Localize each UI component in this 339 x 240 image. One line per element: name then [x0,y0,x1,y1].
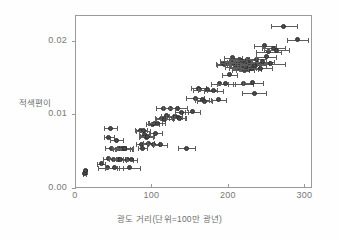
error-bar-cap [169,106,170,111]
hubble-diagram-figure: 0100200300 0.000.010.02 광도 거리(단위=100만 광년… [0,0,339,240]
error-bar-cap [146,122,147,127]
y-tick [72,41,76,42]
error-bar-cap [285,62,286,67]
data-point [264,54,269,59]
data-point [179,110,184,115]
data-point [295,37,300,42]
scatter-data-layer [76,16,311,187]
data-point [274,48,279,53]
error-bar-cap [166,115,167,120]
error-bar-cap [185,110,186,115]
data-point [190,109,195,114]
error-bar-cap [193,88,194,93]
error-bar-cap [200,110,201,115]
error-bar-cap [225,65,226,70]
error-bar-cap [289,48,290,53]
error-bar-cap [165,121,166,126]
error-bar-cap [175,110,176,115]
error-bar-cap [113,157,114,162]
error-bar-cap [241,67,242,72]
error-bar-cap [233,82,234,87]
error-bar-cap [149,131,150,136]
error-bar-cap [264,48,265,53]
error-bar-cap [242,91,243,96]
error-bar-cap [262,46,263,51]
error-bar-cap [287,38,288,43]
error-bar-cap [224,56,225,61]
x-tick-label: 200 [208,190,248,200]
data-point [158,142,163,147]
data-point [202,99,207,104]
x-tick [304,184,305,188]
error-bar-cap [104,126,105,131]
data-point [112,165,117,170]
error-bar-cap [163,106,164,111]
error-bar-cap [156,106,157,111]
data-point [153,131,158,136]
error-bar-cap [226,98,227,103]
error-bar-cap [137,158,138,163]
error-bar-cap [109,157,110,162]
error-bar-cap [123,138,124,143]
error-bar-cap [256,50,257,55]
error-bar-cap [204,89,205,94]
error-bar-cap [237,73,238,78]
data-point [252,91,257,96]
data-point [114,138,119,143]
error-bar-cap [133,146,134,151]
error-bar-cap [117,146,118,151]
error-bar-cap [243,81,244,86]
error-bar-cap [116,157,117,162]
error-bar-cap [276,55,277,60]
error-bar-cap [149,121,150,126]
y-tick-label: 0.00 [27,182,67,192]
data-point [258,66,263,71]
error-bar-cap [169,114,170,119]
data-point [211,88,216,93]
error-bar-cap [143,141,144,146]
error-bar-cap [140,166,141,171]
data-point [184,146,189,151]
error-bar-cap [136,129,137,134]
error-bar-cap [271,24,272,29]
error-bar-cap [211,98,212,103]
error-bar-cap [220,59,221,64]
data-point [216,97,221,102]
error-bar-cap [119,166,120,171]
error-bar-cap [195,146,196,151]
error-bar-cap [153,143,154,148]
y-tick [72,114,76,115]
error-bar-cap [308,38,309,43]
error-bar-cap [104,135,105,140]
y-tick-label: 0.02 [27,35,67,45]
error-bar-cap [197,99,198,104]
error-bar-cap [186,96,187,101]
error-bar-cap [231,63,232,68]
error-bar-cap [248,66,249,71]
error-bar-cap [117,126,118,131]
data-point [140,146,145,151]
error-bar-cap [256,55,257,60]
error-bar-cap [126,158,127,163]
error-bar-cap [167,143,168,148]
error-bar-cap [103,157,104,162]
error-bar-cap [110,138,111,143]
error-bar-cap [186,116,187,121]
y-tick-label: 0.01 [27,108,67,118]
error-bar-cap [251,60,252,65]
data-point [127,165,132,170]
error-bar-cap [297,24,298,29]
error-bar-cap [147,142,148,147]
error-bar-cap [217,63,218,68]
error-bar-cap [229,66,230,71]
data-point [227,72,232,77]
error-bar-cap [211,82,212,87]
x-tick [151,184,152,188]
error-bar-cap [191,86,192,91]
error-bar-cap [272,66,273,71]
data-point [99,161,104,166]
plot-area [75,15,312,188]
error-bar-cap [105,166,106,171]
x-tick [228,184,229,188]
y-axis-title: 적색편이 [9,96,61,108]
